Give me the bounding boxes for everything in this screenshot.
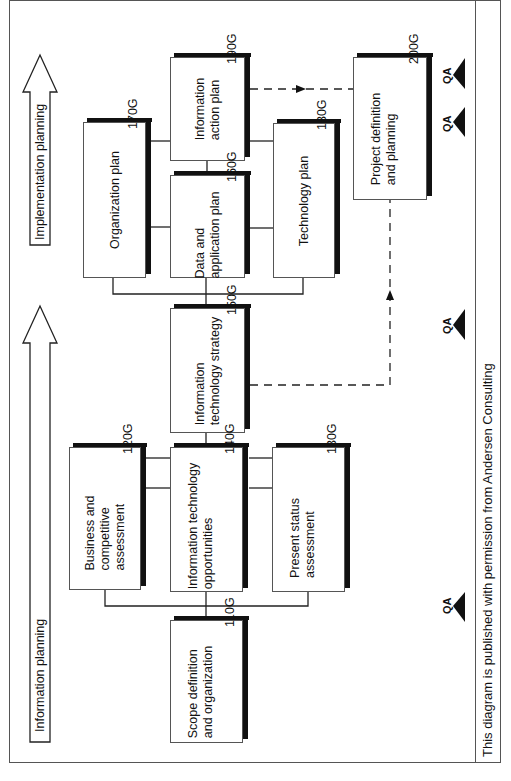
qa-triangle-icon xyxy=(453,107,465,137)
box-label: Information technologyopportunities xyxy=(186,462,216,588)
box-project-definition: 200G Project definitionand planning xyxy=(353,57,427,200)
box-code: 140G xyxy=(223,423,237,454)
box-code: 160G xyxy=(225,151,239,182)
box-label: Organization plan xyxy=(107,151,122,249)
box-code: 190G xyxy=(225,33,239,64)
box-code: 200G xyxy=(407,33,421,64)
box-data-application-plan: 160G Data andapplication plan xyxy=(170,175,245,278)
box-code: 110G xyxy=(223,597,237,627)
qa-label: QA xyxy=(441,318,453,335)
box-label: Informationtechnology strategy xyxy=(193,316,223,424)
box-label: Informationaction plan xyxy=(193,78,223,141)
phase-label-information: Information planning xyxy=(33,619,47,732)
box-organization-plan: 170G Organization plan xyxy=(83,122,146,278)
box-it-opportunities: 140G Information technologyopportunities xyxy=(170,447,243,592)
box-label: Scope definitionand organization xyxy=(186,645,216,737)
qa-label: QA xyxy=(441,598,453,615)
box-code: 130G xyxy=(325,423,339,454)
box-information-action-plan: 190G Informationaction plan xyxy=(170,57,245,161)
box-present-status-assessment: 130G Present statusassessment xyxy=(272,447,345,592)
box-label: Technology plan xyxy=(297,155,312,245)
box-technology-plan: 180G Technology plan xyxy=(273,123,335,278)
box-it-strategy: 150G Informationtechnology strategy xyxy=(170,308,245,433)
box-code: 150G xyxy=(225,284,239,315)
box-scope-definition: 110G Scope definitionand organization xyxy=(170,620,243,743)
qa-label: QA xyxy=(441,116,453,133)
box-label: Project definitionand planning xyxy=(369,92,399,184)
qa-label: QA xyxy=(441,68,453,85)
connectors xyxy=(0,0,511,781)
qa-triangle-icon xyxy=(453,592,465,622)
box-business-competitive-assessment: 120G Business andcompetitiveassessment xyxy=(69,447,141,590)
box-code: 120G xyxy=(121,423,135,454)
phase-label-implementation: Implementation planning xyxy=(33,104,47,240)
box-label: Business andcompetitiveassessment xyxy=(83,495,128,570)
box-code: 180G xyxy=(315,99,329,130)
box-label: Present statusassessment xyxy=(288,498,318,578)
qa-triangle-icon xyxy=(453,58,465,89)
qa-triangle-icon xyxy=(453,309,465,340)
box-code: 170G xyxy=(126,98,140,129)
box-label: Data andapplication plan xyxy=(193,191,223,278)
